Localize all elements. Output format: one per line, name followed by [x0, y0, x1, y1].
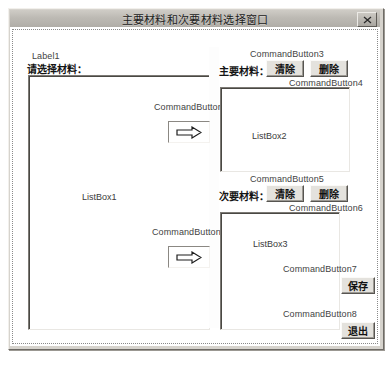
commandbutton5[interactable]: 清除 [266, 185, 304, 202]
commandbutton3-name-tag: CommandButton3 [250, 49, 324, 59]
commandbutton2[interactable] [168, 246, 210, 268]
screenshot-root: 主要材料和次要材料选择窗口 Label1 请选择材料： ListBox1 Com… [0, 0, 392, 371]
commandbutton7-name-tag: CommandButton7 [283, 264, 357, 274]
commandbutton1-name-tag: CommandButton1 [154, 102, 228, 112]
form-designer-window: 主要材料和次要材料选择窗口 Label1 请选择材料： ListBox1 Com… [8, 8, 384, 350]
commandbutton6[interactable]: 删除 [310, 185, 348, 202]
listbox2[interactable] [220, 87, 350, 172]
commandbutton5-name-tag: CommandButton5 [250, 174, 324, 184]
listbox2-caption: ListBox2 [252, 131, 287, 141]
commandbutton8[interactable]: 退出 [341, 322, 375, 339]
window-titlebar: 主要材料和次要材料选择窗口 [10, 10, 380, 28]
label1-text: 请选择材料： [27, 61, 87, 76]
middle-grid-strip [209, 47, 219, 328]
close-button[interactable] [357, 12, 377, 27]
commandbutton3[interactable]: 清除 [266, 60, 304, 77]
form-design-surface[interactable]: Label1 请选择材料： ListBox1 CommandButton1 Co… [10, 27, 380, 346]
commandbutton7[interactable]: 保存 [341, 277, 375, 294]
window-title: 主要材料和次要材料选择窗口 [122, 11, 269, 27]
commandbutton4[interactable]: 删除 [310, 60, 348, 77]
primary-material-label: 主要材料： [219, 63, 269, 78]
commandbutton1[interactable] [168, 121, 210, 143]
listbox1-caption: ListBox1 [82, 192, 117, 202]
label1-name-tag: Label1 [32, 51, 60, 61]
commandbutton8-name-tag: CommandButton8 [283, 309, 357, 319]
right-arrow-icon [176, 251, 202, 264]
close-icon [363, 16, 372, 24]
listbox1[interactable] [28, 75, 210, 330]
secondary-material-label: 次要材料： [219, 188, 269, 203]
commandbutton2-name-tag: CommandButton2 [152, 227, 226, 237]
right-arrow-icon [176, 126, 202, 139]
listbox3-caption: ListBox3 [253, 239, 288, 249]
